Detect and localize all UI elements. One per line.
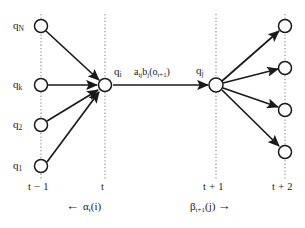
- state-nodes: [35, 20, 292, 173]
- time-label-t-minus-1: t − 1: [28, 182, 49, 193]
- beta-annotation: βt+1(j)→: [190, 199, 230, 212]
- node-q1[interactable]: [35, 160, 48, 173]
- state-label-qi: qi: [114, 66, 122, 77]
- node-q2[interactable]: [35, 119, 48, 132]
- alpha-arrow-icon: ←: [66, 198, 79, 213]
- node-next-1[interactable]: [279, 20, 292, 33]
- edge-q2-to-qi: [47, 90, 98, 121]
- node-qN[interactable]: [35, 20, 48, 33]
- state-label-qj: qj: [196, 65, 204, 76]
- edge-qj-to-next-1: [222, 31, 279, 81]
- state-label-qN: qN: [13, 20, 24, 31]
- node-qk[interactable]: [35, 79, 48, 92]
- node-qi[interactable]: [99, 79, 112, 92]
- time-label-t-plus-1: t + 1: [203, 182, 224, 193]
- trellis-canvas: [0, 0, 305, 228]
- node-next-4[interactable]: [279, 146, 292, 159]
- node-next-3[interactable]: [279, 104, 292, 117]
- edge-qN-to-qi: [46, 31, 99, 80]
- node-qj[interactable]: [209, 78, 223, 92]
- edge-qj-to-next-3: [223, 88, 278, 107]
- alpha-annotation: ←αt(i): [66, 199, 101, 212]
- transition-formula: aijbj(ot+1): [134, 67, 170, 77]
- hmm-trellis-diagram: qN qk q2 q1 qi qj aijbj(ot+1) t − 1 t t …: [0, 0, 305, 228]
- state-label-qk: qk: [13, 79, 22, 90]
- outgoing-edges: [222, 31, 279, 146]
- incoming-edges: [46, 31, 99, 162]
- time-label-t: t: [101, 182, 104, 193]
- edge-q1-to-qi: [47, 92, 99, 162]
- node-next-2[interactable]: [279, 62, 292, 75]
- state-label-q2: q2: [13, 119, 22, 130]
- edge-qj-to-next-4: [222, 90, 279, 146]
- time-label-t-plus-2: t + 2: [272, 182, 293, 193]
- beta-arrow-icon: →: [217, 198, 230, 213]
- edge-qj-to-next-2: [223, 69, 278, 83]
- state-label-q1: q1: [13, 160, 22, 171]
